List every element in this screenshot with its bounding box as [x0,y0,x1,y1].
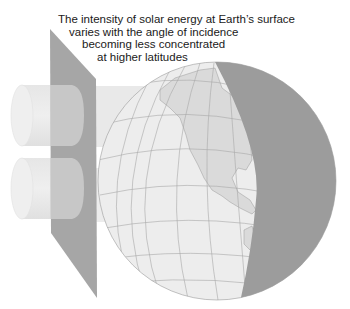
earth-globe [98,60,345,302]
caption-line-4: at higher latitudes [97,51,188,64]
caption-line-3: becoming less concentrated [82,38,225,51]
solar-incidence-diagram: The intensity of solar energy at Earth’s… [0,0,350,309]
caption-line-1: The intensity of solar energy at Earth’s… [58,13,295,26]
caption-line-2: varies with the angle of incidence [69,26,238,39]
